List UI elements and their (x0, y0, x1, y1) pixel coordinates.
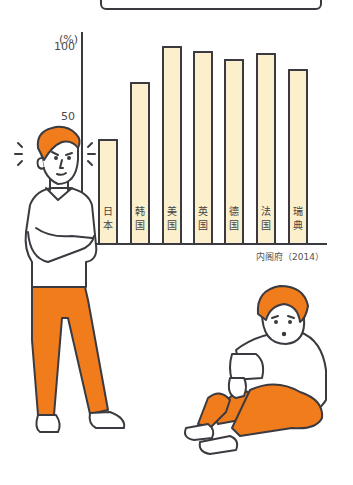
standing-man-figure (15, 127, 124, 432)
sitting-boy-figure (185, 286, 326, 454)
illustration (0, 0, 353, 485)
